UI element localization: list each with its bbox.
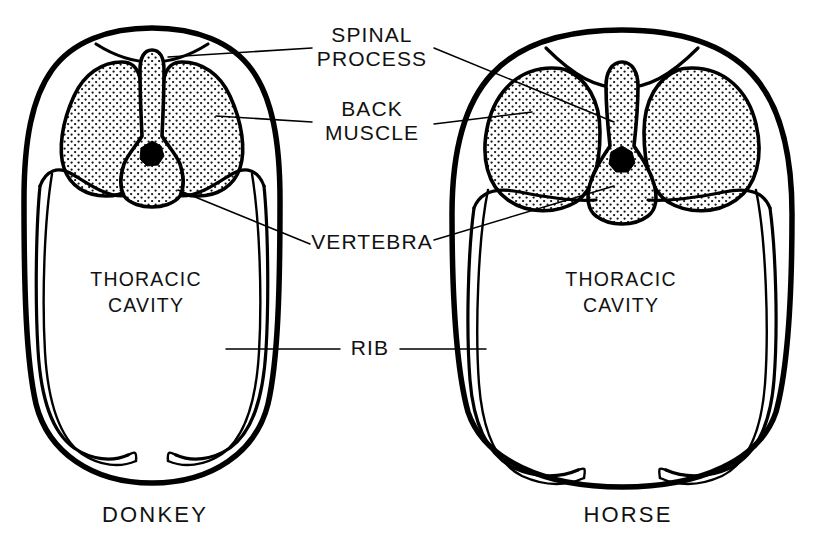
horse-thoracic-cavity-label-line1: THORACIC (565, 268, 676, 290)
donkey-cross-section: THORACIC CAVITY DONKEY (24, 28, 280, 527)
donkey-species-label: DONKEY (102, 502, 208, 527)
label-back-muscle-line2: MUSCLE (325, 121, 419, 144)
horse-species-label: HORSE (583, 502, 672, 527)
label-spinal-process-line1: SPINAL (331, 23, 412, 46)
donkey-thoracic-cavity-label-line1: THORACIC (90, 268, 201, 290)
horse-cross-section: THORACIC CAVITY HORSE (452, 30, 792, 527)
label-vertebra: VERTEBRA (311, 230, 433, 253)
cross-section-diagram: THORACIC CAVITY DONKEY THORACIC (0, 0, 815, 554)
label-spinal-process-line2: PROCESS (317, 47, 427, 70)
anatomical-figure: THORACIC CAVITY DONKEY THORACIC (0, 0, 815, 554)
label-back-muscle-line1: BACK (341, 97, 403, 120)
donkey-thoracic-cavity-label-line2: CAVITY (108, 294, 184, 316)
horse-thoracic-cavity-label-line2: CAVITY (583, 294, 659, 316)
label-rib: RIB (351, 336, 389, 359)
